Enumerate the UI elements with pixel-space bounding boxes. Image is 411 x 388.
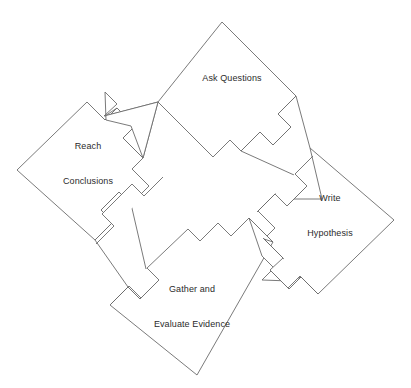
diagram-canvas: Ask Questions Write Hypothesis Gather an… (0, 0, 411, 388)
node-ask-questions[interactable] (158, 22, 296, 157)
cycle-diagram-svg (0, 0, 411, 388)
